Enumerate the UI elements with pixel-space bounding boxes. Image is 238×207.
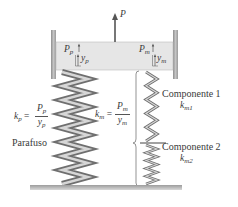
bolt-num-subscript: p bbox=[43, 107, 47, 115]
bolt-fraction-denominator: yp bbox=[36, 117, 48, 129]
members-stiffness-lhs: km = bbox=[95, 110, 112, 121]
members-fraction-numerator: Pm bbox=[115, 102, 130, 115]
members-force-subscript: m bbox=[145, 48, 150, 56]
force-symbol: P bbox=[120, 9, 126, 19]
component-2-stiffness: km2 bbox=[180, 154, 193, 165]
component-1-label: Componente 1 bbox=[162, 89, 221, 99]
bolt-stiffness-fraction: Pp yp bbox=[35, 104, 48, 129]
component-2-stiffness-subscript: m2 bbox=[184, 157, 193, 165]
members-equals-sign: = bbox=[107, 109, 112, 119]
member-spring-1 bbox=[146, 72, 157, 141]
component-1-stiffness-subscript: m1 bbox=[184, 104, 193, 112]
bolt-deflection-subscript: p bbox=[85, 57, 89, 65]
component-2-label: Componente 2 bbox=[162, 142, 221, 152]
component-1-stiffness: km1 bbox=[180, 101, 193, 112]
floor bbox=[30, 185, 182, 190]
bolt-stiffness-subscript: p bbox=[18, 115, 22, 123]
members-num-subscript: m bbox=[123, 105, 128, 113]
force-arrow-icon bbox=[112, 13, 118, 42]
members-deflection-label: ym bbox=[157, 54, 166, 65]
bolt-deflection-label: yp bbox=[81, 54, 89, 65]
member-spring-2 bbox=[146, 145, 157, 184]
members-deflection-subscript: m bbox=[161, 57, 166, 65]
bolt-fraction-numerator: Pp bbox=[35, 104, 48, 117]
bolt-equals-sign: = bbox=[24, 111, 29, 121]
bolt-stiffness-lhs: kp = bbox=[14, 112, 29, 123]
bolt-den-subscript: p bbox=[42, 121, 46, 129]
members-brace bbox=[133, 71, 139, 186]
members-fraction-denominator: ym bbox=[116, 115, 129, 127]
members-force-label: Pm bbox=[139, 45, 150, 56]
left-wall bbox=[51, 30, 56, 79]
members-stiffness-fraction: Pm ym bbox=[115, 102, 130, 127]
bolt-name-label: Parafuso bbox=[12, 138, 47, 148]
members-den-subscript: m bbox=[122, 119, 127, 127]
bolt-force-label: Pp bbox=[64, 45, 73, 56]
members-stiffness-subscript: m bbox=[99, 113, 104, 121]
bolt-spring bbox=[62, 72, 88, 184]
bolt-force-subscript: p bbox=[70, 48, 74, 56]
right-wall bbox=[173, 30, 178, 79]
force-label: P bbox=[120, 10, 126, 20]
